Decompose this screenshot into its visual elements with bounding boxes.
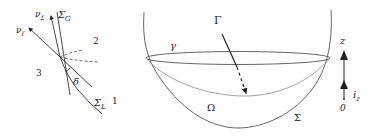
gamma-arrow-dashed bbox=[237, 67, 246, 93]
delta-label: δ bbox=[73, 76, 79, 87]
unit-vector-arrowhead bbox=[340, 80, 348, 89]
gamma-arrow-solid bbox=[222, 34, 237, 67]
z-label: z bbox=[339, 35, 346, 46]
z-axis: z iz 0 bbox=[339, 35, 360, 113]
nu-gamma-label: νΓ bbox=[16, 25, 26, 37]
contact-line-figure: νΣ ΣG νΓ 2 3 δ ΣL 1 bbox=[16, 9, 118, 114]
drop-bowl-figure: Γ γ Ω Σ bbox=[144, 10, 332, 128]
z-axis-arrowhead bbox=[340, 50, 348, 60]
region-3-label: 3 bbox=[36, 68, 42, 78]
sigma-label: Σ bbox=[294, 112, 301, 123]
gamma-lower-label: γ bbox=[170, 40, 176, 51]
origin-label: 0 bbox=[340, 103, 346, 113]
sigma-g-label: ΣG bbox=[57, 9, 71, 23]
gamma-upper-label: Γ bbox=[214, 14, 222, 27]
region-1-label: 1 bbox=[112, 96, 118, 106]
origin-dot bbox=[343, 98, 345, 100]
omega-label: Ω bbox=[207, 102, 215, 113]
nu-sigma-label: νΣ bbox=[35, 9, 45, 21]
nu-gamma-arrow bbox=[29, 28, 60, 57]
rim-ellipse-gamma bbox=[146, 52, 330, 65]
inner-surface-curve bbox=[146, 58, 330, 96]
sigma-l-label: ΣL bbox=[93, 97, 106, 111]
dashed-line-lower bbox=[60, 57, 99, 62]
diagram-canvas: νΣ ΣG νΓ 2 3 δ ΣL 1 Γ γ Ω Σ z iz 0 bbox=[0, 0, 380, 136]
region-2-label: 2 bbox=[93, 36, 99, 46]
unit-vector-label: iz bbox=[353, 89, 360, 103]
